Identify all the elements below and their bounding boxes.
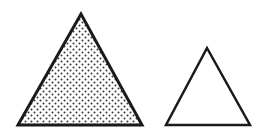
small-empty-triangle [166, 48, 250, 125]
triangles-figure [0, 0, 267, 129]
large-dotted-triangle [18, 14, 142, 125]
